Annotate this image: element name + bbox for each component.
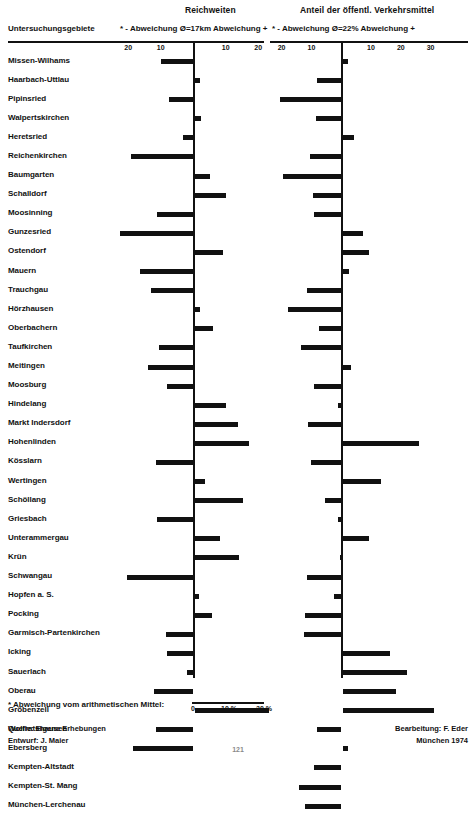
bar-verkehrsmittel xyxy=(316,116,341,121)
axis-tick-label: 20 xyxy=(278,44,286,51)
bar-verkehrsmittel xyxy=(334,594,341,599)
row-label: Oberbachern xyxy=(8,323,57,332)
row-label: Baumgarten xyxy=(8,170,54,179)
footnote-deviation: * Abweichung vom arithmetischen Mittel: xyxy=(8,700,164,709)
chart-row: Gunzesried xyxy=(0,224,476,243)
bar-reichweiten xyxy=(195,174,210,179)
footnote-scale-tick: 0 xyxy=(191,705,195,712)
chart-row: Baumgarten xyxy=(0,167,476,186)
bar-verkehrsmittel xyxy=(305,613,341,618)
axis-tick-label: 30 xyxy=(427,44,435,51)
chart-row: Sauerlach xyxy=(0,663,476,682)
bar-reichweiten xyxy=(183,135,193,140)
axis-subheader-left: * - Abweichung Ø=17km Abweichung + xyxy=(120,24,267,33)
row-label: Griesbach xyxy=(8,514,47,523)
row-label: Wertingen xyxy=(8,476,47,485)
bar-reichweiten xyxy=(195,498,242,503)
bar-reichweiten xyxy=(195,422,237,427)
chart-row: Hopfen a. S. xyxy=(0,587,476,606)
bar-verkehrsmittel xyxy=(343,135,353,140)
row-label: Oberau xyxy=(8,686,36,695)
chart-row: Hindelang xyxy=(0,396,476,415)
bar-verkehrsmittel xyxy=(343,670,407,675)
chart-row: Pipinsried xyxy=(0,90,476,109)
bar-verkehrsmittel xyxy=(305,804,341,809)
chart-row: Schöllang xyxy=(0,491,476,510)
bar-reichweiten xyxy=(195,78,200,83)
bar-verkehrsmittel xyxy=(343,365,350,370)
axis-rule-left xyxy=(8,41,264,43)
bar-reichweiten xyxy=(195,116,201,121)
row-label: Pipinsried xyxy=(8,94,46,103)
bar-reichweiten xyxy=(127,575,194,580)
bar-verkehrsmittel xyxy=(280,97,341,102)
bar-verkehrsmittel xyxy=(343,651,389,656)
bar-reichweiten xyxy=(157,212,193,217)
bar-verkehrsmittel xyxy=(338,517,341,522)
row-label: Reichenkirchen xyxy=(8,151,67,160)
chart-row: Hörzhausen xyxy=(0,300,476,319)
chart-row: Taufkirchen xyxy=(0,338,476,357)
bar-reichweiten xyxy=(187,670,194,675)
chart-row: Mauern xyxy=(0,262,476,281)
bar-verkehrsmittel xyxy=(343,479,380,484)
axis-tick-label: 10 xyxy=(157,44,165,51)
bar-reichweiten xyxy=(195,403,226,408)
bar-verkehrsmittel xyxy=(314,765,341,770)
row-label: Hohenlinden xyxy=(8,437,56,446)
bar-verkehrsmittel xyxy=(343,536,368,541)
chart-row: Moosburg xyxy=(0,377,476,396)
bar-verkehrsmittel xyxy=(340,555,341,560)
chart-row: Krün xyxy=(0,548,476,567)
bar-verkehrsmittel xyxy=(325,498,341,503)
bar-reichweiten xyxy=(156,460,193,465)
row-label: Meitingen xyxy=(8,361,45,370)
chart-row: Kösslarn xyxy=(0,453,476,472)
row-label: Unterammergau xyxy=(8,533,69,542)
chart-rows: Missen-WilhamsHaarbach-UttlauPipinsriedW… xyxy=(0,52,476,813)
row-label: Icking xyxy=(8,647,31,656)
bar-verkehrsmittel xyxy=(299,785,341,790)
chart-row: Oberbachern xyxy=(0,319,476,338)
row-label: Haarbach-Uttlau xyxy=(8,75,69,84)
bar-reichweiten xyxy=(195,250,223,255)
bar-reichweiten xyxy=(195,536,219,541)
bar-reichweiten xyxy=(195,193,226,198)
source-line-1: Quelle: Eigene Erhebungen xyxy=(8,724,106,733)
row-label: Krün xyxy=(8,552,26,561)
footnote-scale-rule xyxy=(192,702,264,704)
bar-reichweiten xyxy=(148,365,194,370)
row-label: Schwangau xyxy=(8,571,52,580)
bar-verkehrsmittel xyxy=(343,689,395,694)
bar-reichweiten xyxy=(195,594,198,599)
page-number: 121 xyxy=(0,746,476,753)
row-label: Missen-Wilhams xyxy=(8,56,70,65)
axis-tick-label: 20 xyxy=(254,44,262,51)
chart-row: Ostendorf xyxy=(0,243,476,262)
bar-reichweiten xyxy=(169,97,193,102)
chart-row: Icking xyxy=(0,644,476,663)
bar-verkehrsmittel xyxy=(313,193,341,198)
row-label: Taufkirchen xyxy=(8,342,52,351)
chart-title-left: Reichweiten xyxy=(185,5,236,15)
bar-verkehrsmittel xyxy=(317,78,341,83)
bar-reichweiten xyxy=(166,632,194,637)
axis-tick-label: 10 xyxy=(307,44,315,51)
bar-reichweiten xyxy=(167,651,193,656)
bar-verkehrsmittel xyxy=(314,384,341,389)
bar-verkehrsmittel xyxy=(307,288,341,293)
chart-title-right: Anteil der öffentl. Verkehrsmittel xyxy=(300,5,434,15)
row-label: Heretsried xyxy=(8,132,47,141)
bar-verkehrsmittel xyxy=(314,212,341,217)
axis-tick-label: 10 xyxy=(367,44,375,51)
chart-row: Hohenlinden xyxy=(0,434,476,453)
chart-row: München-Lerchenau xyxy=(0,797,476,813)
chart-row: Moosinning xyxy=(0,205,476,224)
footnote-scale-tick: 20 % xyxy=(256,705,272,712)
row-label: Moosinning xyxy=(8,208,52,217)
bar-verkehrsmittel xyxy=(343,441,419,446)
row-label: Hindelang xyxy=(8,399,46,408)
bar-reichweiten xyxy=(157,517,193,522)
chart-row: Reichenkirchen xyxy=(0,147,476,166)
